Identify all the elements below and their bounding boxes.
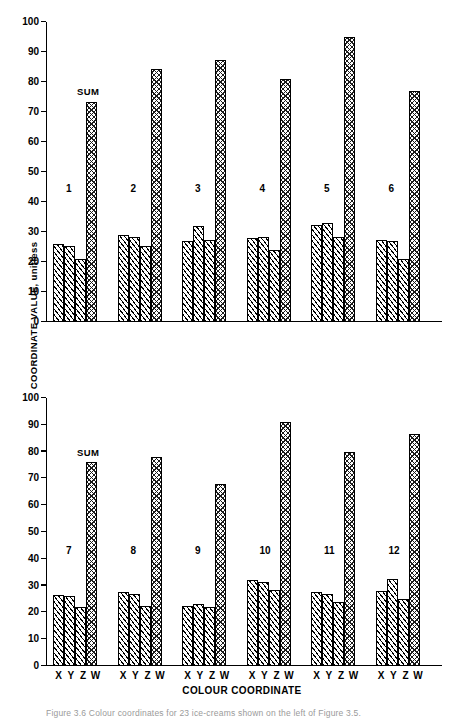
x-axis-tick-label: X	[311, 671, 322, 681]
y-axis-tick	[41, 111, 46, 112]
y-axis-tick-label: 0	[33, 317, 39, 327]
y-axis-tick	[41, 584, 46, 585]
bar-group-label: 1	[66, 184, 72, 194]
x-axis-title: COLOUR COORDINATE	[46, 685, 438, 696]
bar-y	[193, 604, 204, 666]
y-axis-tick-label: 100	[22, 393, 39, 403]
bar-z	[204, 240, 215, 323]
bar-x	[376, 591, 387, 666]
x-axis-tick-label: X	[182, 671, 193, 681]
y-axis-tick-label: 50	[28, 167, 39, 177]
y-axis-tick-label: 30	[28, 581, 39, 591]
x-axis-tick-label: X	[247, 671, 258, 681]
bar-y	[129, 237, 140, 323]
figure-caption: Figure 3.6 Colour coordinates for 23 ice…	[46, 708, 429, 718]
bar-y	[322, 594, 333, 666]
y-axis-tick	[41, 611, 46, 612]
y-axis-tick-label: 80	[28, 447, 39, 457]
y-axis-tick-label: 80	[28, 77, 39, 87]
x-axis-tick-labels: XYZW	[311, 671, 359, 681]
chart-panel-top: 01020304050607080901001SUM23456	[46, 22, 438, 322]
bar-group-bars	[247, 22, 291, 322]
bar-w	[344, 37, 355, 322]
bar-x	[118, 235, 129, 322]
y-axis-tick	[41, 424, 46, 425]
x-axis-tick-label: Y	[323, 671, 334, 681]
x-axis-tick-label: W	[90, 671, 101, 681]
y-axis-tick-label: 90	[28, 420, 39, 430]
y-axis-tick	[41, 397, 46, 398]
bar-y	[258, 237, 269, 323]
y-axis-line-top	[46, 22, 47, 322]
x-axis-tick-label: Y	[130, 671, 141, 681]
bar-x	[118, 592, 129, 666]
bar-z	[75, 607, 86, 666]
x-axis-tick-label: W	[219, 671, 230, 681]
y-axis-tick-label: 60	[28, 500, 39, 510]
plot-area-top: 01020304050607080901001SUM23456	[46, 22, 438, 322]
y-axis-tick-label: 0	[33, 661, 39, 671]
bar-z	[333, 602, 344, 666]
bar-group-bars	[376, 22, 420, 322]
bar-group-label: 4	[260, 184, 266, 194]
x-axis-tick-label: Y	[65, 671, 76, 681]
y-axis-tick	[41, 171, 46, 172]
bar-group-bars	[311, 22, 355, 322]
bar-w	[344, 452, 355, 666]
x-axis-tick-label: Z	[142, 671, 153, 681]
bar-w	[280, 79, 291, 322]
plot-area-bottom: 01020304050607080901007SUMXYZW8XYZW9XYZW…	[46, 398, 438, 666]
bar-z	[140, 606, 151, 666]
bar-w	[86, 102, 97, 323]
bar-y	[387, 579, 398, 666]
x-axis-tick-label: Z	[271, 671, 282, 681]
bar-z	[204, 607, 215, 666]
y-axis-tick-label: 30	[28, 227, 39, 237]
bar-z	[398, 599, 409, 666]
bar-y	[258, 582, 269, 666]
y-axis-tick-label: 20	[28, 607, 39, 617]
bar-group-label: 12	[389, 546, 400, 556]
bar-group-label: 7	[66, 546, 72, 556]
y-axis-tick	[41, 504, 46, 505]
bar-group-bars	[53, 22, 97, 322]
y-axis-tick	[41, 141, 46, 142]
x-axis-tick-label: W	[283, 671, 294, 681]
x-axis-tick-label: Z	[78, 671, 89, 681]
y-axis-tick	[41, 201, 46, 202]
y-axis-tick-label: 10	[28, 634, 39, 644]
y-axis-tick-label: 10	[28, 287, 39, 297]
figure-colour-coordinates: COORDINATE VALUE, unitless 0102030405060…	[0, 0, 451, 718]
x-axis-tick-labels: XYZW	[53, 671, 101, 681]
bar-w	[409, 434, 420, 666]
x-axis-tick-label: Y	[388, 671, 399, 681]
y-axis-tick-label: 50	[28, 527, 39, 537]
y-axis-tick	[41, 231, 46, 232]
bar-group-bars	[247, 398, 291, 666]
bar-y	[193, 226, 204, 322]
bar-group-bars	[118, 398, 162, 666]
bar-z	[75, 259, 86, 322]
bar-w	[215, 484, 226, 666]
bar-x	[182, 606, 193, 666]
y-axis-tick-label: 40	[28, 197, 39, 207]
bar-x	[247, 238, 258, 322]
y-axis-tick	[41, 291, 46, 292]
bar-group-bars	[118, 22, 162, 322]
x-axis-tick-label: W	[348, 671, 359, 681]
bar-w	[215, 60, 226, 323]
bar-x	[182, 241, 193, 322]
y-axis-tick	[41, 665, 46, 666]
y-axis-tick	[41, 81, 46, 82]
y-axis-tick	[41, 51, 46, 52]
bar-y	[64, 246, 75, 323]
x-axis-tick-label: Z	[207, 671, 218, 681]
bar-z	[269, 590, 280, 666]
y-axis-line-bottom	[46, 398, 47, 666]
x-axis-tick-label: X	[53, 671, 64, 681]
y-axis-tick-label: 70	[28, 107, 39, 117]
y-axis-tick	[41, 638, 46, 639]
bar-w	[151, 69, 162, 323]
x-axis-tick-label: W	[154, 671, 165, 681]
y-axis-tick-label: 20	[28, 257, 39, 267]
